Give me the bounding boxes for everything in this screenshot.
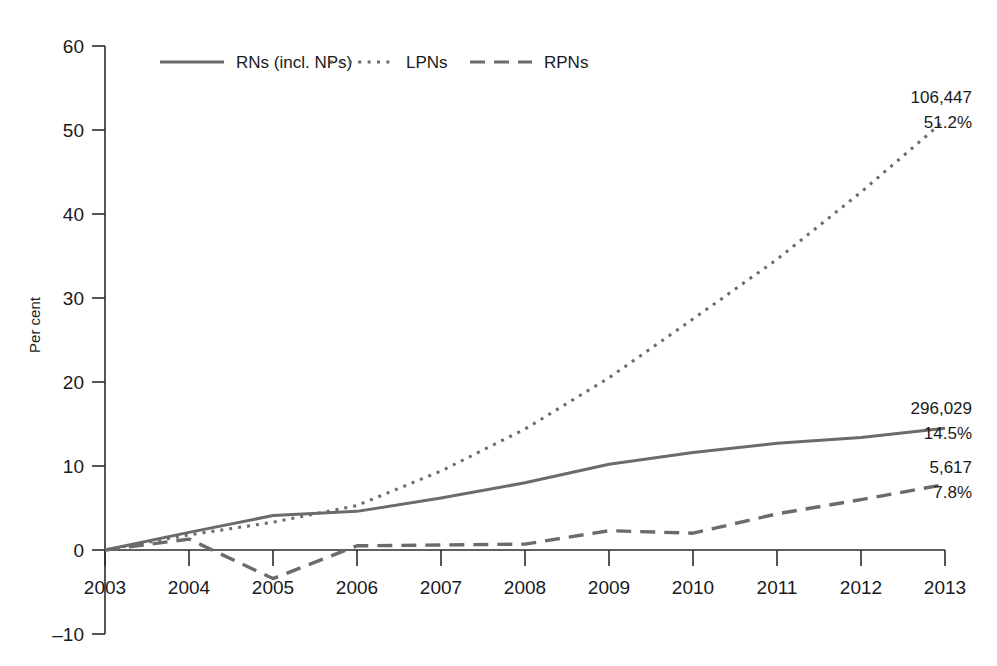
series-line [105, 428, 945, 550]
end-label-rpns-percent: 7.8% [933, 483, 972, 502]
x-axis-tick-labels: 2003200420052006200720082009201020112012… [84, 577, 966, 598]
line-chart: 6050403020100–10 20032004200520062007200… [0, 0, 997, 666]
x-tick-label: 2006 [336, 577, 378, 598]
end-label-rns-value: 296,029 [911, 399, 972, 418]
y-axis-tick-labels: 6050403020100–10 [52, 36, 84, 645]
x-tick-label: 2012 [840, 577, 882, 598]
x-tick-label: 2008 [504, 577, 546, 598]
x-tick-label: 2004 [168, 577, 211, 598]
y-axis-title: Per cent [26, 296, 43, 353]
legend-label: RNs (incl. NPs) [236, 53, 352, 72]
series-line [105, 120, 945, 550]
legend-label: LPNs [406, 53, 448, 72]
chart-canvas: 6050403020100–10 20032004200520062007200… [0, 0, 997, 666]
x-tick-label: 2011 [757, 577, 798, 598]
y-tick-label: 60 [63, 36, 84, 57]
y-tick-label: 50 [63, 120, 84, 141]
y-tick-label: 40 [63, 204, 84, 225]
series-lines [105, 120, 945, 579]
x-tick-label: 2007 [420, 577, 462, 598]
y-tick-label: 0 [73, 540, 84, 561]
x-tick-label: 2010 [672, 577, 714, 598]
x-tick-label: 2013 [924, 577, 966, 598]
y-tick-label: –10 [52, 624, 84, 645]
chart-legend: RNs (incl. NPs)LPNsRPNs [160, 53, 588, 72]
y-tick-label: 30 [63, 288, 84, 309]
end-label-lpns-value: 106,447 [911, 88, 972, 107]
end-label-rns-percent: 14.5% [924, 424, 972, 443]
end-label-lpns-percent: 51.2% [924, 113, 972, 132]
y-axis-ticks [92, 46, 105, 634]
x-tick-label: 2009 [588, 577, 630, 598]
y-tick-label: 10 [63, 456, 84, 477]
legend-label: RPNs [544, 53, 588, 72]
y-tick-label: 20 [63, 372, 84, 393]
x-tick-label: 2003 [84, 577, 126, 598]
end-label-rpns-value: 5,617 [929, 458, 972, 477]
